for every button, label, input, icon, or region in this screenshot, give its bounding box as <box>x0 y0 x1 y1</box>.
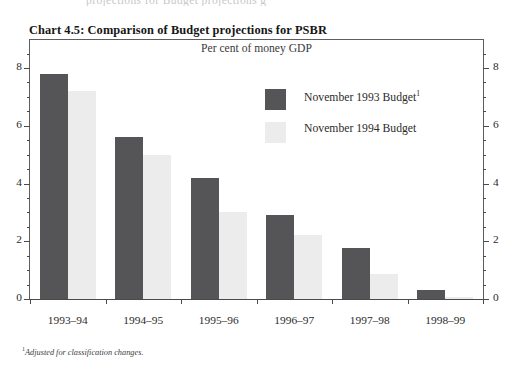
y-axis-label-left-6: 6 <box>0 118 22 130</box>
y-tick-r-1.5 <box>483 256 486 257</box>
x-axis-label-1994-95: 1994–95 <box>105 314 181 326</box>
y-axis-label-left-8: 8 <box>0 60 22 72</box>
y-tick-r-4 <box>483 184 489 185</box>
y-tick-r-6 <box>483 126 489 127</box>
y-axis-label-right-6: 6 <box>493 118 513 130</box>
bar-1996-97-series1 <box>266 215 294 299</box>
x-axis-label-1995-96: 1995–96 <box>181 314 257 326</box>
y-tick-r-3 <box>483 212 486 213</box>
footnote: 1Adjusted for classification changes. <box>22 346 143 357</box>
bar-1993-94-series2 <box>68 91 96 299</box>
y-axis-label-right-0: 0 <box>493 291 513 303</box>
bar-1998-99-series1 <box>417 290 445 299</box>
y-axis-label-left-0: 0 <box>0 291 22 303</box>
y-tick-r-2.5 <box>483 227 486 228</box>
legend-label-2: November 1994 Budget <box>304 122 416 135</box>
y-axis-label-right-8: 8 <box>493 60 513 72</box>
y-tick-r-4.5 <box>483 169 486 170</box>
chart-title: Chart 4.5: Comparison of Budget projecti… <box>29 23 327 38</box>
x-axis-label-1993-94: 1993–94 <box>30 314 106 326</box>
y-tick-r-1 <box>483 270 486 271</box>
chart-page: projections for Budget projections g Cha… <box>0 0 513 371</box>
y-axis-label-right-4: 4 <box>493 176 513 188</box>
y-axis-label-left-2: 2 <box>0 233 22 245</box>
y-tick-r-2 <box>483 241 489 242</box>
bar-1995-96-series2 <box>219 212 247 299</box>
y-axis-label-right-2: 2 <box>493 233 513 245</box>
bar-1997-98-series2 <box>370 274 398 299</box>
clipped-text-above: projections for Budget projections g <box>86 0 416 6</box>
bar-1995-96-series1 <box>191 178 219 299</box>
x-axis-label-1998-99: 1998–99 <box>407 314 483 326</box>
y-tick-r-7.5 <box>483 82 486 83</box>
y-tick-r-0.5 <box>483 285 486 286</box>
y-tick-r-3.5 <box>483 198 486 199</box>
x-axis-label-1996-97: 1996–97 <box>256 314 332 326</box>
y-axis-label-left-4: 4 <box>0 176 22 188</box>
y-tick-r-7 <box>483 97 486 98</box>
bars-layer <box>30 40 483 299</box>
x-axis-label-1997-98: 1997–98 <box>332 314 408 326</box>
y-tick-r-5 <box>483 155 486 156</box>
footnote-text: Adjusted for classification changes. <box>25 348 143 357</box>
bar-1996-97-series2 <box>294 235 322 299</box>
y-tick-r-8 <box>483 68 489 69</box>
y-tick-r-5.5 <box>483 140 486 141</box>
y-tick-r-8.5 <box>483 54 486 55</box>
bar-1997-98-series1 <box>342 248 370 299</box>
bar-1993-94-series1 <box>40 74 68 299</box>
x-tick-6 <box>483 299 484 304</box>
bar-1994-95-series1 <box>115 137 143 299</box>
bar-1994-95-series2 <box>143 155 171 299</box>
zero-baseline <box>30 299 483 300</box>
legend-swatch-1 <box>265 89 286 110</box>
y-tick-r-6.5 <box>483 111 486 112</box>
legend-swatch-2 <box>265 122 286 143</box>
legend-label-1: November 1993 Budget1 <box>304 89 420 104</box>
legend-label-superscript-1: 1 <box>416 89 420 98</box>
